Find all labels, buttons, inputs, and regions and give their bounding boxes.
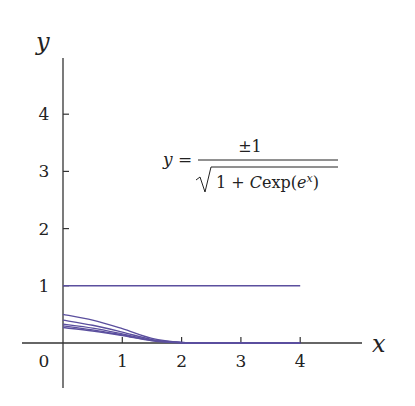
y-tick-label: 2 xyxy=(39,219,50,239)
x-tick-label: 1 xyxy=(117,351,128,371)
formula-lhs: y = xyxy=(162,149,192,169)
curves xyxy=(63,286,300,343)
formula-annotation: y = ±1 1 + Cexp(ex) xyxy=(162,137,338,192)
x-tick-label: 3 xyxy=(235,351,246,371)
chart: x y 012341234 y = ±1 1 + Cexp(ex) xyxy=(0,0,415,406)
formula-numerator: ±1 xyxy=(238,137,262,156)
ticks: 012341234 xyxy=(39,104,306,371)
y-tick-label: 4 xyxy=(39,104,50,124)
formula-denominator: 1 + Cexp(ex) xyxy=(216,172,319,192)
y-tick-label: 1 xyxy=(39,276,50,296)
x-tick-label: 0 xyxy=(39,351,50,371)
x-tick-label: 4 xyxy=(295,351,306,371)
y-axis-label: y xyxy=(35,28,50,56)
y-tick-label: 3 xyxy=(39,161,50,181)
x-tick-label: 2 xyxy=(176,351,187,371)
x-axis-label: x xyxy=(372,330,386,358)
